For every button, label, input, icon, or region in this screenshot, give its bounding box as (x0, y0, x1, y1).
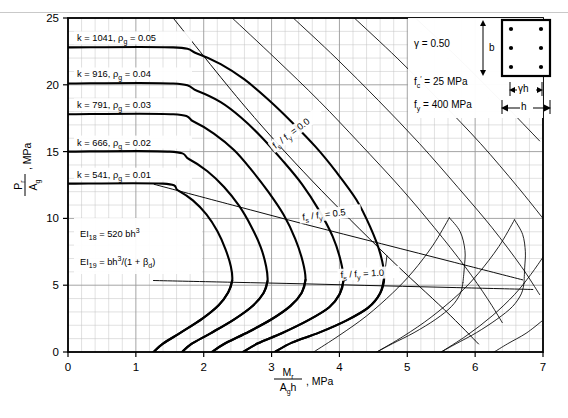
y-tick-label: 5 (53, 279, 59, 291)
y-tick-label: 10 (46, 212, 59, 224)
x-axis-title-units: , MPa (306, 375, 334, 387)
y-tick-label: 20 (46, 79, 59, 91)
core-width-label: γh (518, 83, 529, 94)
rebar-dot (509, 65, 513, 69)
x-tick-label: 2 (201, 361, 207, 373)
column-interaction-diagram-figure: 01234567 0510152025 k = 1041, ρg = 0.05k… (0, 0, 568, 418)
x-tick-label: 1 (133, 361, 139, 373)
x-tick-label: 3 (268, 361, 274, 373)
parameter-legend-box: γ = 0.50 fc′ = 25 MPa fy = 400 MPa b (408, 18, 551, 118)
x-tick-label: 6 (472, 361, 478, 373)
legend-fc: fc′ = 25 MPa (414, 75, 468, 89)
y-tick-label: 15 (46, 146, 59, 158)
ei-notes: EI18 = 520 bh3 EI19 = bh3/(1 + βd) (74, 218, 202, 274)
section-height-label: b (489, 42, 495, 53)
rebar-dot (539, 46, 543, 50)
chart-svg: 01234567 0510152025 k = 1041, ρg = 0.05k… (0, 0, 568, 418)
rebar-dot (509, 46, 513, 50)
rebar-dot (539, 65, 543, 69)
section-width-label: h (521, 101, 527, 112)
x-tick-label: 4 (336, 361, 343, 373)
x-tick-label: 7 (540, 361, 546, 373)
scan-artifact-line (0, 12, 568, 13)
rebar-dot (539, 27, 543, 31)
y-tick-label: 0 (53, 346, 59, 358)
x-tick-label: 5 (404, 361, 410, 373)
legend-gamma: γ = 0.50 (414, 38, 450, 49)
x-tick-label: 0 (65, 361, 71, 373)
y-axis-title-units: , MPa (21, 142, 33, 170)
column-cross-section (502, 20, 550, 76)
rebar-dot (509, 27, 513, 31)
scan-ghost-text (150, 1, 450, 11)
y-tick-label: 25 (46, 12, 59, 24)
